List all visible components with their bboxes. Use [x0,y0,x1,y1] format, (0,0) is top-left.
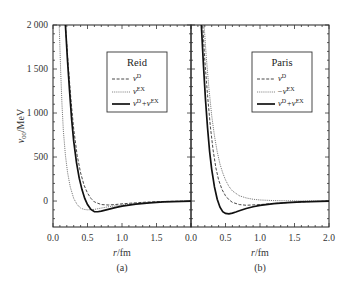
y-tick-labels: 2 000 1 500 1 000 500 0 [27,20,49,206]
panel-label-a: (a) [116,262,127,274]
legend-b-item-sum-sup2: EX [296,98,305,104]
x-axis-unit-b: /fm [255,247,269,258]
y-tick-0: 0 [43,196,48,206]
curve-b-vD-plus-vEX [201,21,329,214]
x-tick-a-0: 0.0 [47,233,59,243]
y-tick-2000: 2 000 [27,20,49,30]
legend-a-title: Reid [127,57,148,68]
legend-b-item-minus-vEX-base: −v [277,86,287,96]
y-axis-unit: /MeV [15,108,26,132]
curve-a-vD-plus-vEX [65,21,191,212]
legend-b-title: Paris [272,57,293,68]
x-tick-b-0: 0.0 [185,233,197,243]
y-axis-title: v00/MeV [15,108,27,143]
y-tick-500: 500 [34,152,49,162]
x-tick-a-1.0: 1.0 [116,233,128,243]
curve-a-vEX [59,21,191,210]
x-tick-b-1.0: 1.0 [254,233,266,243]
legend-a-item-sum-sup2: EX [151,98,160,104]
legend-b: Paris vD −vEX vD+vEX [252,52,312,112]
legend-b-item-vD-sup: D [282,73,287,79]
legend-b-item-sum-plus: +v [286,98,296,108]
x-tick-b-2.0: 2.0 [323,233,335,243]
x-axis-title-b: r/fm [251,247,269,258]
x-axis-title-a: r/fm [113,247,131,258]
legend-b-item-minus-vEX-sup: EX [287,86,296,92]
x-tick-labels-a: 0.0 0.5 1.0 1.5 [47,233,163,243]
x-tick-a-1.5: 1.5 [151,233,163,243]
legend-a: Reid vD vEX vD+vEX [107,52,167,112]
x-tick-b-0.5: 0.5 [220,233,232,243]
panel-b-curves [201,21,329,214]
x-axis-unit-a: /fm [117,247,131,258]
legend-a-item-sum-plus: +v [141,98,151,108]
legend-a-item-vEX-sup: EX [137,86,146,92]
y-tick-1000: 1 000 [27,108,49,118]
legend-a-item-vD-sup: D [137,73,142,79]
x-tick-a-0.5: 0.5 [82,233,94,243]
curve-b-vD [203,21,329,205]
y-tick-1500: 1 500 [27,64,49,74]
potential-chart-figure: 2 000 1 500 1 000 500 0 v00/MeV 0.0 0.5 … [0,0,350,289]
panel-a-curves [59,21,191,212]
x-tick-labels-b: 0.0 0.5 1.0 1.5 2.0 [185,233,335,243]
x-tick-b-1.5: 1.5 [289,233,301,243]
panel-label-b: (b) [254,262,266,274]
curve-a-vD [65,21,191,205]
